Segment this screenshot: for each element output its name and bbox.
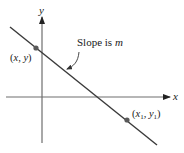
slope-annotation: Slope is m <box>77 36 123 48</box>
point-x-y <box>33 45 38 50</box>
y-axis-label: y <box>38 4 44 16</box>
slope-pointer-arrow <box>67 52 79 69</box>
point-x-y-label: (x, y) <box>10 52 32 64</box>
point-x1-y1-label: (x1, y1) <box>132 108 161 121</box>
slope-diagram: x y (x, y) (x1, y1) Slope is m <box>0 0 184 153</box>
x-axis-label: x <box>172 90 178 102</box>
point-x1-y1 <box>124 117 129 122</box>
